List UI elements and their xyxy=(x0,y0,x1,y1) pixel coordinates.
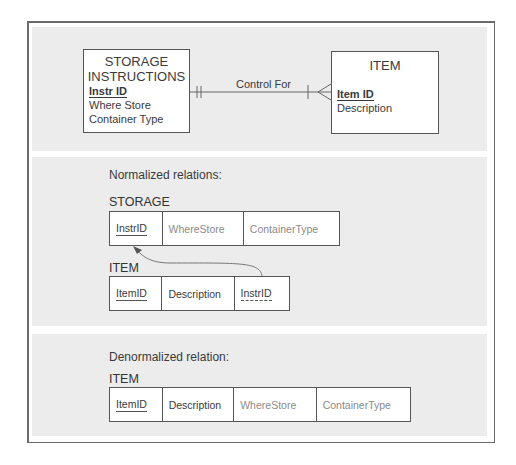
arrowhead-icon xyxy=(133,246,142,254)
connector-overlay xyxy=(0,0,516,465)
foreign-key-arrow xyxy=(133,246,262,276)
